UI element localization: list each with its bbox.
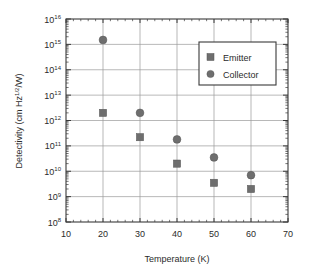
y-axis-title-text: Detectivity (cm Hz1/2/W) bbox=[14, 74, 24, 169]
data-point-collector bbox=[99, 36, 107, 44]
chart-figure: 1081091010101110121013101410151016 10203… bbox=[0, 0, 320, 278]
scatter-plot: 1081091010101110121013101410151016 10203… bbox=[0, 0, 320, 278]
x-axis-tick-labels: 10203040506070 bbox=[61, 229, 293, 239]
y-axis-tick-labels: 1081091010101110121013101410151016 bbox=[44, 14, 61, 228]
x-axis-title: Temperature (K) bbox=[144, 254, 209, 264]
y-tick-label: 1014 bbox=[44, 65, 61, 76]
y-tick-label: 108 bbox=[48, 217, 62, 228]
data-point-emitter bbox=[99, 109, 106, 116]
data-point-emitter bbox=[136, 134, 143, 141]
x-tick-label: 30 bbox=[135, 229, 145, 239]
data-point-collector bbox=[247, 171, 255, 179]
x-tick-label: 60 bbox=[246, 229, 256, 239]
data-point-collector bbox=[173, 135, 181, 143]
x-tick-label: 10 bbox=[61, 229, 71, 239]
y-tick-label: 109 bbox=[48, 192, 62, 203]
y-tick-label: 1011 bbox=[45, 141, 62, 152]
x-tick-label: 40 bbox=[172, 229, 182, 239]
y-tick-label: 1010 bbox=[44, 166, 61, 177]
y-tick-label: 1012 bbox=[44, 115, 61, 126]
y-tick-label: 1015 bbox=[44, 39, 61, 50]
y-tick-label: 1013 bbox=[44, 90, 61, 101]
y-tick-label: 1016 bbox=[44, 14, 61, 25]
legend-label-collector: Collector bbox=[223, 70, 259, 80]
legend-label-emitter: Emitter bbox=[223, 53, 252, 63]
data-point-collector bbox=[210, 154, 218, 162]
x-tick-label: 50 bbox=[209, 229, 219, 239]
x-tick-label: 70 bbox=[283, 229, 293, 239]
data-point-emitter bbox=[247, 185, 254, 192]
data-point-emitter bbox=[210, 179, 217, 186]
legend-marker-collector bbox=[207, 70, 214, 77]
chart-legend: Emitter Collector bbox=[199, 42, 276, 85]
y-axis-title: Detectivity (cm Hz1/2/W) bbox=[14, 74, 24, 169]
x-tick-label: 20 bbox=[98, 229, 108, 239]
data-point-emitter bbox=[173, 160, 180, 167]
data-point-collector bbox=[136, 109, 144, 117]
legend-marker-emitter bbox=[207, 54, 214, 61]
